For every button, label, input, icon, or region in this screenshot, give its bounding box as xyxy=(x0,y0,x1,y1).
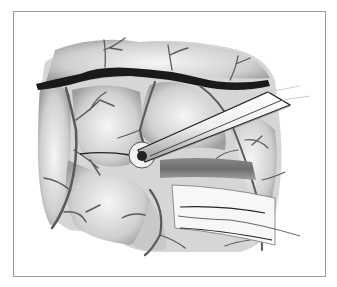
surgical-illustration xyxy=(0,0,337,287)
retracted-band xyxy=(160,158,256,180)
